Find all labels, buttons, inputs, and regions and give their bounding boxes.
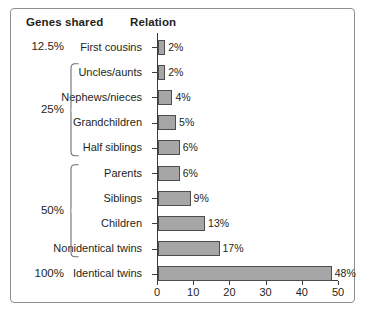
bar-value-label: 6% [183, 166, 198, 181]
group-label: 50% [16, 204, 64, 216]
bar [158, 140, 180, 155]
y-tick-mark [152, 72, 157, 73]
group-brace [70, 63, 79, 157]
bar-value-label: 13% [208, 216, 229, 231]
bar-value-label: 9% [194, 191, 209, 206]
y-tick-mark [152, 148, 157, 149]
group-label: 25% [16, 103, 64, 115]
bar [158, 166, 180, 181]
column-header-relation: Relation [130, 16, 176, 28]
bar-chart: Genes shared Relation 01020304050 First … [0, 0, 367, 321]
bar [158, 216, 205, 231]
bar [158, 191, 191, 206]
bar-value-label: 48% [335, 266, 356, 281]
x-tick-label: 40 [296, 286, 308, 298]
bar [158, 65, 165, 80]
y-tick-mark [152, 274, 157, 275]
x-tick-label: 50 [332, 286, 344, 298]
bar-value-label: 17% [223, 241, 244, 256]
y-tick-mark [152, 223, 157, 224]
x-tick-label: 0 [154, 286, 160, 298]
bar [158, 40, 165, 55]
bar-value-label: 5% [179, 115, 194, 130]
bar-value-label: 4% [175, 90, 190, 105]
column-header-genes-shared: Genes shared [26, 16, 103, 28]
bar-value-label: 6% [183, 140, 198, 155]
y-tick-mark [152, 249, 157, 250]
y-tick-mark [152, 47, 157, 48]
x-tick-mark [229, 281, 230, 285]
x-tick-label: 10 [187, 286, 199, 298]
x-tick-label: 20 [223, 286, 235, 298]
x-tick-mark [266, 281, 267, 285]
group-label: 100% [16, 267, 64, 279]
y-tick-mark [152, 97, 157, 98]
group-brace [70, 164, 79, 258]
x-tick-mark [302, 281, 303, 285]
bar-value-label: 2% [168, 40, 183, 55]
bar [158, 241, 220, 256]
group-label: 12.5% [16, 40, 64, 52]
y-tick-mark [152, 198, 157, 199]
y-tick-mark [152, 123, 157, 124]
bar [158, 266, 332, 281]
bar [158, 115, 176, 130]
x-tick-mark [193, 281, 194, 285]
y-tick-mark [152, 173, 157, 174]
x-tick-mark [338, 281, 339, 285]
x-tick-mark [157, 281, 158, 285]
x-tick-label: 30 [259, 286, 271, 298]
bar-value-label: 2% [168, 65, 183, 80]
bar [158, 90, 172, 105]
